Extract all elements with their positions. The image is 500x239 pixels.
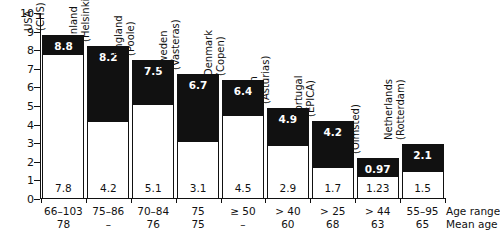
x-axis-legend: Age range Mean age	[446, 205, 500, 231]
x-axis-group-label: 66–10378	[41, 205, 86, 231]
bar-label-site: (Rotterdam)	[394, 80, 405, 141]
x-age-range: 66–103	[41, 205, 86, 218]
bar[interactable]: 4.92.9	[267, 108, 309, 199]
bar-label: USA(CHS)	[23, 3, 46, 32]
bar-label-country: USA	[338, 133, 349, 154]
bar-segment-upper: 8.2	[88, 47, 128, 121]
bar[interactable]: 0.971.23	[357, 158, 399, 199]
x-tick-mark	[176, 198, 177, 203]
bar-label: Denmark(Copen)	[203, 30, 226, 76]
bar-value-base: 1.7	[313, 182, 353, 194]
y-tick-label-7: 7	[27, 62, 34, 75]
x-axis-group-label: ≥ 50–	[221, 205, 266, 231]
x-mean-age: 76	[131, 218, 176, 231]
bar[interactable]: 6.73.1	[177, 74, 219, 199]
bar-label-site: (Poole)	[125, 21, 136, 56]
bar[interactable]: 8.87.8	[42, 35, 84, 199]
x-mean-age: 68	[310, 218, 355, 231]
x-tick-mark	[41, 198, 42, 203]
y-tick-label-1: 1	[27, 174, 34, 187]
bar-group[interactable]: 6.44.5Denmark(Copen)	[222, 13, 264, 199]
x-age-range: > 44	[355, 205, 400, 218]
x-tick-mark	[355, 198, 356, 203]
y-tick-label-5: 5	[27, 100, 34, 113]
x-age-range: > 25	[310, 205, 355, 218]
x-tick-mark	[310, 198, 311, 203]
x-tick-mark	[221, 198, 222, 203]
x-mean-age: 78	[41, 218, 86, 231]
x-axis-group-label: > 4463	[355, 205, 400, 231]
bar-value-total: 6.7	[178, 79, 218, 91]
bar-label-country: Sweden	[158, 31, 169, 71]
bar-value-base: 4.5	[223, 182, 263, 194]
bar[interactable]: 8.24.2	[87, 46, 129, 199]
bar-label-site: (Helsinki)	[80, 0, 91, 42]
bar[interactable]: 2.11.5	[402, 144, 444, 199]
bar-value-total: 8.8	[43, 40, 83, 52]
x-axis-group-label: 75–86–	[86, 205, 131, 231]
x-tick-mark	[445, 198, 446, 203]
x-age-range: 75	[176, 205, 221, 218]
bar-label-site: (Olmsted)	[349, 104, 360, 154]
bar-value-base: 4.2	[88, 182, 128, 194]
x-mean-age: 60	[265, 218, 310, 231]
bar-label-site: (Copen)	[215, 36, 226, 76]
x-mean-age: –	[221, 218, 266, 231]
x-tick-mark	[400, 198, 401, 203]
bar-value-base: 1.5	[403, 182, 443, 194]
bar-label-site: (Vasteras)	[170, 20, 181, 71]
bar-label-country: Denmark	[203, 30, 214, 76]
y-tick-label-3: 3	[27, 137, 34, 150]
bar-value-base: 2.9	[268, 182, 308, 194]
x-axis-group-label: 70–8476	[131, 205, 176, 231]
bar[interactable]: 7.55.1	[132, 60, 174, 200]
bar-label-country: England	[113, 15, 124, 56]
x-axis-legend-row1: Age range	[446, 205, 500, 218]
bar-value-base: 7.8	[43, 182, 83, 194]
bar-label-site: (CHS)	[35, 3, 46, 32]
plot-area: 8.87.8USA(CHS)8.24.2Finland(Helsinki)7.5…	[41, 13, 445, 199]
bar-label: USA(Olmsted)	[338, 104, 361, 154]
x-age-range: 55–95	[400, 205, 445, 218]
bar-segment-upper: 2.1	[403, 145, 443, 172]
bar-label-country: Netherlands	[383, 79, 394, 140]
bar-label: Portugal(EPICA)	[293, 75, 316, 116]
y-tick-label-6: 6	[27, 81, 34, 94]
bar-segment-upper: 0.97	[358, 159, 398, 177]
bar-value-total: 2.1	[403, 149, 443, 161]
x-mean-age: –	[86, 218, 131, 231]
x-age-range: 70–84	[131, 205, 176, 218]
x-age-range: > 40	[265, 205, 310, 218]
bar-label-site: (Asturias)	[259, 56, 270, 104]
bar-label-site: (EPICA)	[304, 80, 315, 117]
bar-value-base: 5.1	[133, 182, 173, 194]
y-tick-label-4: 4	[27, 118, 34, 131]
x-mean-age: 65	[400, 218, 445, 231]
x-mean-age: 63	[355, 218, 400, 231]
bar-label-country: USA	[23, 11, 34, 32]
x-axis: Age range Mean age 66–1037875–86–70–8476…	[0, 198, 495, 239]
bar-value-base: 1.23	[358, 182, 398, 194]
x-axis-group-label: > 4060	[265, 205, 310, 231]
bar-label: Netherlands(Rotterdam)	[383, 79, 406, 140]
bar-group[interactable]: 2.11.5Netherlands(Rotterdam)	[402, 13, 444, 199]
x-tick-mark	[265, 198, 266, 203]
bar-label: England(Poole)	[113, 15, 136, 56]
bar-label-country: Portugal	[293, 75, 304, 116]
y-tick-label-2: 2	[27, 155, 34, 168]
x-axis-group-label: 7575	[176, 205, 221, 231]
x-tick-mark	[131, 198, 132, 203]
bar-value-total: 0.97	[358, 163, 398, 175]
x-axis-group-label: 55–9565	[400, 205, 445, 231]
x-age-range: 75–86	[86, 205, 131, 218]
x-axis-group-label: > 2568	[310, 205, 355, 231]
x-mean-age: 75	[176, 218, 221, 231]
x-tick-mark	[86, 198, 87, 203]
y-tick-label-8: 8	[27, 44, 34, 57]
bar-label: Spain(Asturias)	[248, 56, 271, 104]
x-axis-legend-row2: Mean age	[446, 218, 500, 231]
bar-label: Sweden(Vasteras)	[158, 20, 181, 71]
bar-segment-upper: 6.7	[178, 75, 218, 142]
bar-value-base: 3.1	[178, 182, 218, 194]
